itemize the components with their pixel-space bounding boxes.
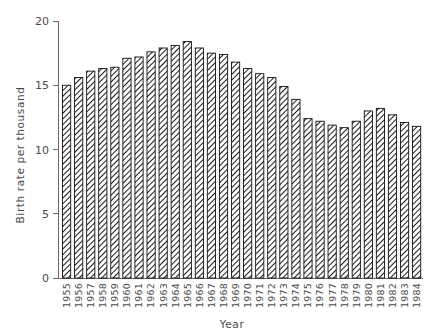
y-tick-label: 10 <box>35 144 49 157</box>
bar <box>316 121 324 278</box>
bar <box>352 121 360 278</box>
x-tick-label: 1974 <box>290 283 301 308</box>
bar <box>183 42 191 278</box>
x-tick-label: 1961 <box>133 283 144 308</box>
bar <box>123 58 131 278</box>
x-tick-labels: 1955195619571958195919601961196219631964… <box>61 283 422 308</box>
bar <box>400 123 408 278</box>
x-tick-label: 1967 <box>206 283 217 308</box>
bar <box>135 57 143 278</box>
y-tick-label: 0 <box>42 272 49 285</box>
bar <box>99 69 107 278</box>
bar <box>364 111 372 278</box>
bar <box>207 53 215 278</box>
bar-series <box>63 42 421 278</box>
bar <box>219 54 227 278</box>
x-tick-label: 1981 <box>375 283 386 308</box>
y-axis: 05101520 <box>35 15 58 285</box>
bar <box>87 71 95 278</box>
y-tick-label: 5 <box>42 208 49 221</box>
bar <box>376 108 384 278</box>
x-tick-label: 1969 <box>230 283 241 308</box>
x-tick-label: 1965 <box>182 283 193 308</box>
chart-container: 05101520 1955195619571958195919601961196… <box>0 0 442 334</box>
bar <box>304 119 312 278</box>
bar <box>75 78 83 278</box>
bar <box>268 78 276 278</box>
bar <box>292 99 300 278</box>
x-tick-label: 1970 <box>242 283 253 308</box>
x-tick-label: 1977 <box>327 283 338 308</box>
x-tick-label: 1964 <box>170 283 181 308</box>
bar <box>244 69 252 278</box>
x-tick-label: 1975 <box>302 283 313 308</box>
x-tick-label: 1962 <box>145 283 156 308</box>
y-axis-title: Birth rate per thousand <box>14 87 26 224</box>
x-tick-label: 1956 <box>73 283 84 308</box>
x-tick-label: 1963 <box>158 283 169 308</box>
x-tick-label: 1957 <box>85 283 96 308</box>
x-tick-label: 1978 <box>339 283 350 308</box>
x-tick-label: 1968 <box>218 283 229 308</box>
bar <box>171 45 179 278</box>
x-tick-label: 1955 <box>61 283 72 308</box>
y-tick-label: 15 <box>35 79 49 92</box>
x-tick-label: 1980 <box>363 283 374 308</box>
x-axis-title: Year <box>219 318 245 330</box>
x-tick-label: 1979 <box>351 283 362 308</box>
bar <box>256 74 264 278</box>
x-tick-label: 1959 <box>109 283 120 308</box>
bar <box>388 115 396 278</box>
x-tick-label: 1983 <box>399 283 410 308</box>
y-tick-label: 20 <box>35 15 49 28</box>
x-tick-label: 1984 <box>411 283 422 308</box>
bar <box>159 48 167 278</box>
x-tick-label: 1973 <box>278 283 289 308</box>
bar <box>328 125 336 278</box>
x-tick-label: 1958 <box>97 283 108 308</box>
bar <box>63 85 71 278</box>
bar <box>195 48 203 278</box>
bar <box>147 52 155 278</box>
bar <box>280 87 288 278</box>
x-tick-label: 1976 <box>314 283 325 308</box>
birth-rate-bar-chart: 05101520 1955195619571958195919601961196… <box>0 0 442 334</box>
bar <box>111 67 119 278</box>
bar <box>340 128 348 278</box>
x-tick-label: 1982 <box>387 283 398 308</box>
x-tick-label: 1960 <box>121 283 132 308</box>
bar <box>413 126 421 278</box>
x-tick-label: 1966 <box>194 283 205 308</box>
x-tick-label: 1972 <box>266 283 277 308</box>
bar <box>231 62 239 278</box>
x-tick-label: 1971 <box>254 283 265 308</box>
